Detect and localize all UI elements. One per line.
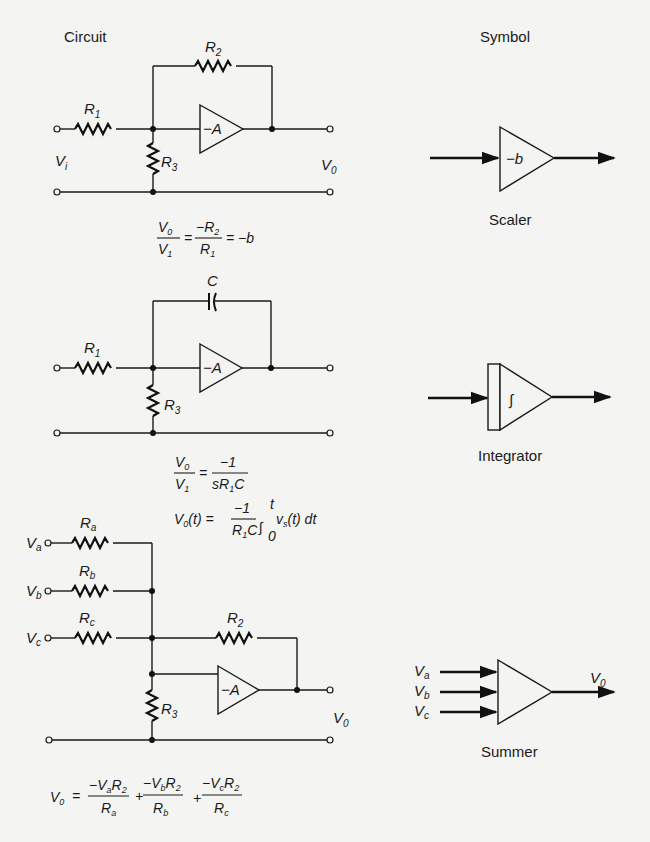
svg-text:V0: V0 xyxy=(158,219,172,237)
svg-text:R1C: R1C xyxy=(232,522,258,540)
summer-circuit: Va Vb Vc Ra Rb Rc R2 R3 −A V0 V0 = −VaR2… xyxy=(26,514,349,818)
resistor-r2-icon xyxy=(195,61,231,71)
resistor-r2-icon xyxy=(216,633,252,643)
summer-input-b-label: Vb xyxy=(414,682,430,701)
vout-label: V0 xyxy=(321,156,337,176)
r1-label: R1 xyxy=(84,339,100,359)
integrator-input-block xyxy=(488,364,500,430)
r3-label: R3 xyxy=(164,396,181,416)
svg-text:−VcR2: −VcR2 xyxy=(202,775,239,793)
resistor-r3-icon xyxy=(147,690,157,721)
vin-label: Vi xyxy=(55,152,68,172)
resistor-r1-icon xyxy=(75,124,111,134)
resistor-r3-icon xyxy=(148,385,158,416)
integral-sign: ∫ xyxy=(258,519,264,536)
symbol-heading: Symbol xyxy=(480,28,530,45)
svg-text:=: = xyxy=(199,465,207,481)
integrator-circuit: R1 C R3 −A V0 V1 = −1 sR1C V0(t) = −1 R1… xyxy=(54,272,333,544)
va-label: Va xyxy=(26,534,42,553)
scaler-caption: Scaler xyxy=(489,211,532,228)
input-terminal xyxy=(54,126,60,132)
amp-gain-label: −A xyxy=(203,120,222,137)
scaler-transfer-equation: V0 V1 = −R2 R1 = −b xyxy=(157,219,254,259)
resistor-rb-icon xyxy=(72,586,108,596)
c-label: C xyxy=(207,272,218,289)
rc-label: Rc xyxy=(79,609,95,628)
resistor-ra-icon xyxy=(72,538,108,548)
summer-triangle-icon xyxy=(498,660,552,724)
resistor-rc-icon xyxy=(75,633,111,643)
vb-label: Vb xyxy=(26,582,42,601)
svg-text:0: 0 xyxy=(268,528,276,544)
r2-label: R2 xyxy=(227,609,244,629)
svg-text:Ra: Ra xyxy=(101,800,116,818)
resistor-r3-icon xyxy=(148,143,158,174)
svg-text:V0(t) =: V0(t) = xyxy=(174,511,214,529)
integrator-triangle-icon xyxy=(500,364,552,430)
scaler-circuit: R1 R2 R3 −A Vi V0 V0 V1 = −R2 R1 = −b xyxy=(54,38,337,259)
integrator-time-domain-equation: V0(t) = −1 R1C ∫ t 0 vs(t) dt xyxy=(174,496,317,544)
resistor-r1-icon xyxy=(75,363,111,373)
svg-text:R1: R1 xyxy=(200,241,215,259)
svg-text:−VbR2: −VbR2 xyxy=(143,775,181,793)
svg-text:vs(t) dt: vs(t) dt xyxy=(276,511,317,529)
scaler-gain-label: −b xyxy=(506,150,523,167)
summer-symbol: Va Vb Vc V0 Summer xyxy=(414,660,614,760)
rb-label: Rb xyxy=(79,562,96,581)
svg-text:V1: V1 xyxy=(175,476,189,494)
amp-gain-label: −A xyxy=(203,359,222,376)
svg-text:= −b: = −b xyxy=(226,230,254,246)
integrator-caption: Integrator xyxy=(478,447,542,464)
summer-output-equation: V0 = −VaR2 Ra + −VbR2 Rb + −VcR2 Rc xyxy=(50,775,242,818)
svg-text:V1: V1 xyxy=(158,241,172,259)
summer-input-a-label: Va xyxy=(414,662,430,681)
summer-input-c-label: Vc xyxy=(414,702,429,721)
circuit-heading: Circuit xyxy=(64,28,107,45)
svg-text:−1: −1 xyxy=(234,500,250,516)
r3-label: R3 xyxy=(161,153,178,173)
svg-text:sR1C: sR1C xyxy=(212,476,245,494)
scaler-symbol: −b Scaler xyxy=(430,127,614,228)
capacitor-curved-plate-icon xyxy=(214,293,216,311)
op-amp-circuits-figure: Circuit Symbol R1 R2 R3 −A Vi V0 xyxy=(0,0,650,842)
amp-gain-label: −A xyxy=(221,681,240,698)
svg-text:+: + xyxy=(135,788,143,804)
svg-text:V0: V0 xyxy=(175,454,189,472)
svg-text:+: + xyxy=(193,790,201,806)
vc-label: Vc xyxy=(26,629,41,648)
svg-text:t: t xyxy=(270,496,275,512)
integrator-symbol: ∫ Integrator xyxy=(428,364,610,464)
svg-text:Rb: Rb xyxy=(153,800,168,818)
svg-text:−VaR2: −VaR2 xyxy=(89,777,127,795)
r3-label: R3 xyxy=(161,700,178,720)
r2-label: R2 xyxy=(205,38,222,58)
svg-text:=: = xyxy=(72,788,80,804)
output-terminal xyxy=(327,126,333,132)
svg-text:Rc: Rc xyxy=(214,800,229,818)
svg-text:=: = xyxy=(184,230,192,246)
svg-text:−R2: −R2 xyxy=(196,219,219,237)
svg-text:−1: −1 xyxy=(220,454,236,470)
integrator-transfer-equation: V0 V1 = −1 sR1C xyxy=(174,454,248,494)
summer-caption: Summer xyxy=(481,743,538,760)
vout-label: V0 xyxy=(333,709,349,729)
summer-output-label: V0 xyxy=(590,669,606,689)
svg-text:V0: V0 xyxy=(50,789,64,807)
r1-label: R1 xyxy=(84,100,100,120)
ra-label: Ra xyxy=(80,514,97,533)
